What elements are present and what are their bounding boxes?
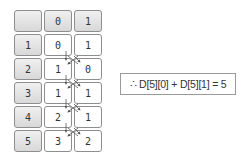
result-formula: ∴ D[5][0] + D[5][1] = 5 [120,73,236,95]
